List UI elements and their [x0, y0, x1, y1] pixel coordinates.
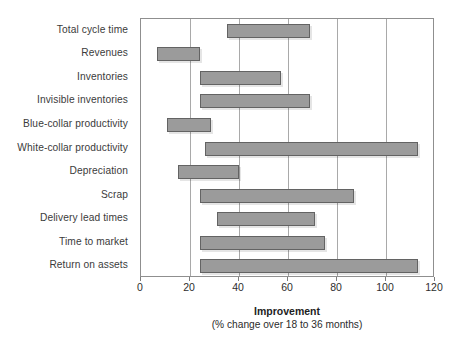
bar [200, 236, 325, 250]
bar [200, 189, 354, 203]
category-label: Return on assets [49, 260, 128, 270]
x-tick-label: 100 [376, 282, 394, 293]
bar [157, 47, 200, 61]
x-axis-title-block: Improvement (% change over 18 to 36 mont… [140, 305, 434, 332]
category-label: White-collar productivity [17, 142, 128, 152]
x-tick-label: 40 [232, 282, 244, 293]
bar [167, 118, 211, 132]
improvement-range-chart: Total cycle timeRevenuesInventoriesInvis… [0, 0, 452, 343]
plot-area [140, 18, 434, 277]
category-label: Total cycle time [57, 25, 128, 35]
category-label: Delivery lead times [40, 213, 128, 223]
category-label: Invisible inventories [37, 95, 128, 105]
category-label: Blue-collar productivity [23, 119, 128, 129]
x-tick-label: 120 [425, 282, 443, 293]
category-axis: Total cycle timeRevenuesInventoriesInvis… [0, 18, 134, 277]
x-axis-title: Improvement [140, 305, 434, 318]
x-axis: 020406080100120 [140, 277, 434, 299]
bar [205, 142, 418, 156]
x-tick-label: 60 [281, 282, 293, 293]
category-label: Inventories [77, 72, 128, 82]
category-label: Scrap [101, 189, 128, 199]
bar [200, 259, 418, 273]
x-tick-label: 80 [330, 282, 342, 293]
bar [200, 71, 281, 85]
x-axis-subtitle: (% change over 18 to 36 months) [140, 319, 434, 332]
x-tick-label: 0 [137, 282, 143, 293]
category-label: Revenues [81, 48, 128, 58]
bar [227, 24, 310, 38]
bar-series [141, 19, 433, 276]
bar [217, 212, 315, 226]
bar [200, 94, 310, 108]
x-tick-label: 20 [183, 282, 195, 293]
category-label: Time to market [59, 237, 128, 247]
category-label: Depreciation [70, 166, 128, 176]
bar [178, 165, 239, 179]
